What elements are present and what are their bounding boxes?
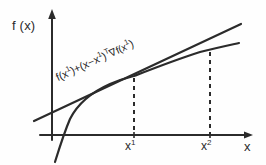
y-axis-arrowhead <box>48 9 56 19</box>
figure-root: f (x) x x1 x2 f(x1)+(x−x1)T∇f(x1) <box>0 0 266 165</box>
tick-label-x1-superscript: 1 <box>131 138 135 147</box>
y-axis-label: f (x) <box>12 18 35 33</box>
x-axis-arrowhead <box>244 131 253 138</box>
x-axis-label: x <box>244 139 251 154</box>
tick-label-x2-superscript: 2 <box>207 138 211 147</box>
tick-label-x2: x2 <box>201 138 211 153</box>
tick-label-x1: x1 <box>125 138 135 153</box>
x-axis <box>40 131 253 138</box>
